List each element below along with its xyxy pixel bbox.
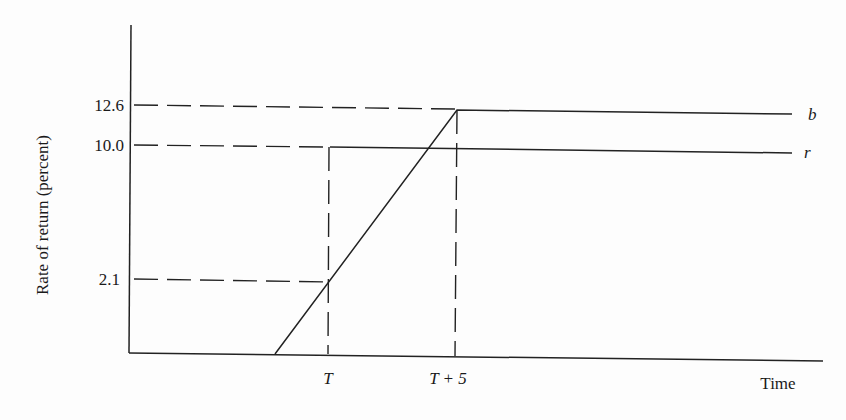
ref-line-T5: [455, 110, 457, 356]
ref-line-T: [328, 147, 329, 354]
ytick-10-0: 10.0: [94, 136, 124, 155]
x-axis: [129, 353, 823, 361]
x-axis-title: Time: [760, 374, 795, 393]
series-r-label: r: [804, 143, 811, 162]
ref-line-12-6: [134, 105, 455, 109]
ref-line-2-1: [134, 279, 329, 282]
y-axis-title: Rate of return (percent): [33, 135, 52, 295]
xtick-T: T: [323, 369, 334, 388]
y-axis: [129, 25, 131, 353]
chart: 12.6 10.0 2.1 T T + 5 b r Time Rate of r…: [0, 0, 846, 420]
ref-line-10-0: [134, 145, 330, 147]
xtick-T5: T + 5: [429, 369, 467, 388]
ytick-12-6: 12.6: [94, 96, 124, 115]
series-b-label: b: [808, 105, 817, 124]
series-r-line: [330, 147, 792, 153]
ytick-2-1: 2.1: [99, 270, 120, 289]
